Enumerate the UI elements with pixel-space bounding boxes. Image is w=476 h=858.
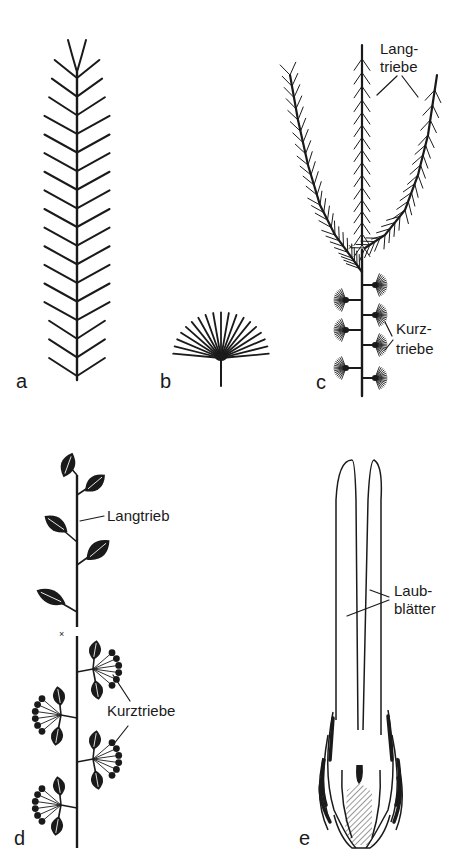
panel-d-leader-line-lang [80,516,104,521]
panel-a-letter: a [16,370,28,392]
panel-e-label-laub: Laub- [394,582,432,599]
panel-a-needle-shoot [44,40,109,380]
panel-e-letter: e [299,827,310,849]
botanical-figure: a b × Lang- triebe Kurz- triebe c × Lang… [0,0,476,858]
panel-c-leader-lines-lang [377,76,418,97]
panel-c-label-lang-2: triebe [380,58,418,75]
panel-c-label-kurz-1: Kurz- [396,320,432,337]
svg-text:×: × [348,242,353,252]
panel-e-leaf-sheath [319,460,402,848]
panel-b-needle-cluster [173,312,269,386]
panel-d-letter: d [14,827,25,849]
panel-b-letter: b [160,370,171,392]
panel-c-letter: c [316,371,326,393]
panel-e-leader-lines [347,590,389,616]
svg-text:×: × [59,629,64,639]
panel-c-label-kurz-2: triebe [396,340,434,357]
panel-c-label-lang-1: Lang- [380,40,418,57]
panel-d-label-langtrieb: Langtrieb [107,507,170,524]
panel-e-label-blaetter: blätter [394,600,436,617]
panel-d-label-kurztriebe: Kurztriebe [107,702,175,719]
